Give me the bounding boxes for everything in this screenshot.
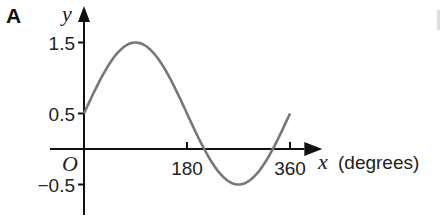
x-tick-label: 180 — [171, 158, 203, 179]
y-tick-label: 1.5 — [49, 33, 75, 54]
y-axis-label: y — [60, 1, 72, 26]
y-tick-label: 0.5 — [49, 104, 75, 125]
y-tick-label: −0.5 — [37, 175, 75, 196]
x-axis-label-variable: x — [317, 149, 328, 174]
chart-plot: 1803601.50.5−0.5 y x (degrees) O — [0, 0, 440, 217]
x-axis-label-unit: (degrees) — [338, 152, 419, 173]
x-tick-label: 360 — [274, 158, 306, 179]
origin-label: O — [62, 151, 78, 176]
